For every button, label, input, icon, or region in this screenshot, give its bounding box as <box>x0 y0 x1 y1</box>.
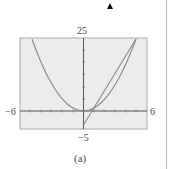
x-min-label: −6 <box>5 107 16 117</box>
x-max-label: 6 <box>150 107 155 117</box>
bullet-icon <box>107 3 113 9</box>
y-min-label: −5 <box>78 133 89 143</box>
caption: (a) <box>74 153 86 163</box>
column-divider <box>166 0 167 169</box>
y-max-label: 25 <box>77 26 87 36</box>
